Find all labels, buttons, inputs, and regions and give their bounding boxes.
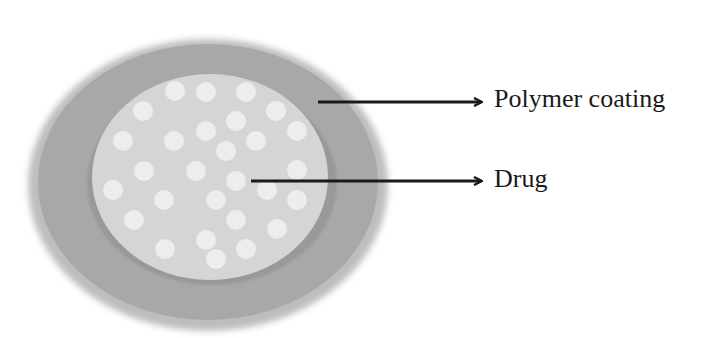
drug-label: Drug	[494, 166, 547, 192]
particle-diagram	[0, 0, 724, 338]
polymer-coating-label: Polymer coating	[494, 86, 665, 112]
